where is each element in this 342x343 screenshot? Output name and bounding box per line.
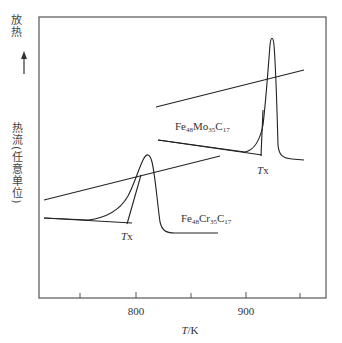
x-tick-label-800: 800 — [128, 305, 145, 317]
tx-label-cr: Tx — [121, 230, 133, 242]
arrow-up-icon — [21, 51, 27, 74]
dsc-chart: 800 900 T/K Fe48Cr35C17 Tx Fe48Mo35C17 T… — [0, 0, 342, 343]
label-fe48cr35c17: Fe48Cr35C17 — [181, 212, 232, 226]
label-fe48mo35c17: Fe48Mo35C17 — [175, 120, 230, 134]
x-axis-title: T/K — [181, 324, 198, 336]
x-ticks — [80, 292, 300, 298]
x-tick-label-900: 900 — [238, 305, 255, 317]
curve-fe48mo35c17 — [156, 38, 304, 160]
tx-label-mo: Tx — [257, 164, 269, 176]
plot-frame — [39, 17, 326, 298]
